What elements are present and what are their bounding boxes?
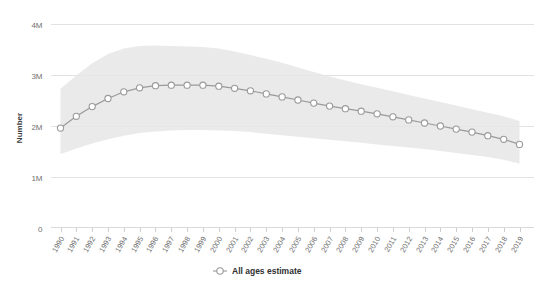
data-point-marker[interactable] — [358, 108, 364, 114]
x-tick-label: 2008 — [334, 235, 350, 254]
data-point-marker[interactable] — [232, 85, 238, 91]
x-tick-label: 1998 — [176, 235, 192, 254]
data-point-marker[interactable] — [121, 89, 127, 95]
x-tick-label: 1993 — [97, 235, 113, 254]
uncertainty-band — [61, 45, 520, 163]
data-point-marker[interactable] — [152, 83, 158, 89]
x-tick-label: 2013 — [414, 235, 430, 254]
x-tick-label: 1994 — [113, 235, 129, 254]
x-tick-label: 2002 — [239, 235, 255, 254]
x-tick-label: 2003 — [255, 235, 271, 254]
x-tick-label: 1991 — [65, 235, 81, 254]
y-tick-label: 3M — [31, 72, 42, 81]
chart-legend[interactable]: All ages estimate — [213, 266, 302, 276]
y-axis-labels: 01M2M3M4M — [31, 21, 43, 234]
x-tick-label: 1995 — [129, 235, 145, 254]
x-tick-label: 2010 — [366, 235, 382, 254]
data-point-marker[interactable] — [516, 141, 522, 147]
data-point-marker[interactable] — [57, 125, 63, 131]
x-tick-label: 2012 — [398, 235, 414, 254]
data-point-marker[interactable] — [184, 82, 190, 88]
data-point-marker[interactable] — [263, 91, 269, 97]
x-tick-label: 2016 — [461, 235, 477, 254]
data-point-marker[interactable] — [295, 97, 301, 103]
data-point-marker[interactable] — [437, 123, 443, 129]
x-tick-label: 2005 — [287, 235, 303, 254]
data-point-marker[interactable] — [453, 126, 459, 132]
x-tick-label: 2015 — [445, 235, 461, 254]
data-point-marker[interactable] — [168, 82, 174, 88]
chart-container: 01M2M3M4M 199019911992199319941995199619… — [0, 0, 547, 293]
data-point-marker[interactable] — [73, 113, 79, 119]
data-point-marker[interactable] — [247, 88, 253, 94]
x-axis-labels: 1990199119921993199419951996199719981999… — [50, 235, 525, 254]
legend-marker-icon — [217, 268, 223, 274]
x-tick-label: 1990 — [50, 235, 66, 254]
data-point-marker[interactable] — [406, 117, 412, 123]
x-tick-label: 2019 — [509, 235, 525, 254]
data-point-marker[interactable] — [342, 106, 348, 112]
data-point-marker[interactable] — [216, 83, 222, 89]
data-point-marker[interactable] — [311, 100, 317, 106]
x-tick-label: 2006 — [303, 235, 319, 254]
data-point-marker[interactable] — [469, 129, 475, 135]
data-point-marker[interactable] — [485, 133, 491, 139]
x-tick-label: 2001 — [224, 235, 240, 254]
x-tick-label: 2018 — [493, 235, 509, 254]
y-tick-label: 4M — [31, 21, 42, 30]
x-tick-label: 2000 — [208, 235, 224, 254]
data-point-marker[interactable] — [200, 82, 206, 88]
x-tick-label: 1999 — [192, 235, 208, 254]
line-chart: 01M2M3M4M 199019911992199319941995199619… — [0, 0, 547, 293]
data-point-marker[interactable] — [390, 114, 396, 120]
x-tick-label: 2017 — [477, 235, 493, 254]
x-axis-ticks — [62, 228, 521, 232]
x-tick-label: 1996 — [144, 235, 160, 254]
legend-label-all-ages-estimate: All ages estimate — [232, 266, 302, 276]
data-point-marker[interactable] — [89, 104, 95, 110]
x-tick-label: 2011 — [382, 235, 398, 253]
x-tick-label: 2014 — [429, 235, 445, 254]
data-point-marker[interactable] — [327, 103, 333, 109]
data-point-marker[interactable] — [105, 95, 111, 101]
y-tick-label: 1M — [31, 174, 42, 183]
y-tick-label: 0 — [38, 225, 43, 234]
y-axis-title: Number — [15, 113, 24, 143]
chart-plot-area — [51, 25, 534, 232]
data-point-marker[interactable] — [374, 111, 380, 117]
data-point-marker[interactable] — [501, 136, 507, 142]
x-tick-label: 2007 — [319, 235, 335, 254]
y-tick-label: 2M — [31, 123, 42, 132]
data-point-marker[interactable] — [137, 85, 143, 91]
x-tick-label: 1997 — [160, 235, 176, 254]
x-tick-label: 2004 — [271, 235, 287, 254]
data-point-marker[interactable] — [421, 120, 427, 126]
data-point-marker[interactable] — [279, 94, 285, 100]
x-tick-label: 2009 — [350, 235, 366, 254]
x-tick-label: 1992 — [81, 235, 97, 254]
